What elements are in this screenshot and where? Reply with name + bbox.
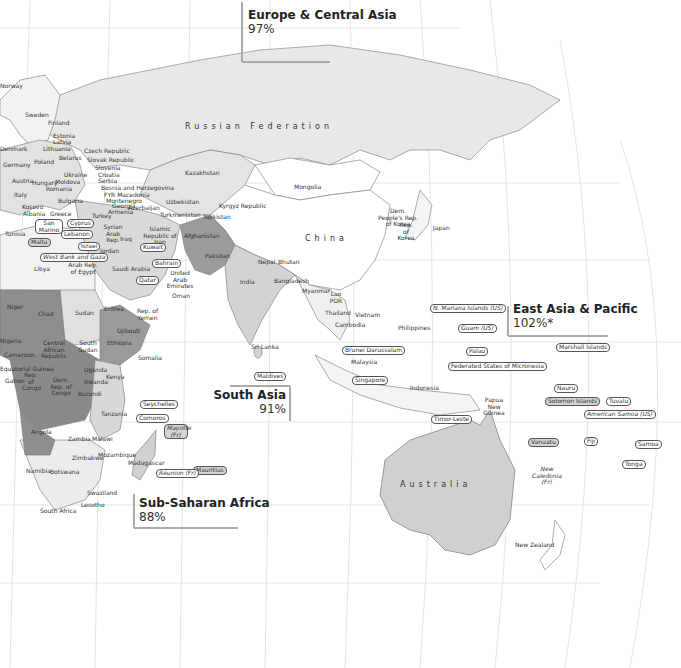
label-botswana: Botswana [50, 469, 79, 476]
label-sri-lanka: Sri Lanka [251, 344, 279, 351]
label-djibouti: Djibouti [117, 328, 140, 335]
label-drc: Dem. Rep. of Congo [48, 377, 74, 397]
label-angola: Angola [31, 429, 52, 436]
sudan-shape [60, 290, 105, 345]
label-png: Papua New Guinea [478, 397, 510, 417]
label-sweden: Sweden [25, 112, 49, 119]
label-marshall: Marshall Islands [556, 343, 610, 352]
label-uae: United Arab Emirates [165, 270, 195, 290]
label-ethiopia: Ethiopia [107, 340, 131, 347]
label-oman: Oman [172, 293, 190, 300]
label-nepal: Nepal [258, 259, 275, 266]
label-slovak: Slovak Republic [87, 157, 134, 164]
label-malawi: Malawi [92, 436, 113, 443]
label-new-zealand: New Zealand [515, 542, 554, 549]
label-namibia: Namibia [26, 468, 51, 475]
label-cambodia: Cambodia [335, 322, 365, 329]
region-name: Europe & Central Asia [248, 8, 397, 22]
label-tuvalu: Tuvalu [606, 397, 631, 406]
label-vanuatu: Vanuatu [528, 438, 559, 447]
label-guam: Guam (US) [458, 324, 497, 333]
label-saudi: Saudi Arabia [112, 266, 150, 273]
label-albania: Albania [23, 211, 45, 218]
label-australia: Australia [400, 480, 471, 489]
label-am-samoa: American Samoa (US) [584, 410, 656, 419]
label-norway: Norway [0, 83, 23, 90]
label-malaysia: Malaysia [351, 359, 377, 366]
label-madagascar: Madagascar [128, 460, 164, 467]
label-lao: Lao PDR [329, 291, 343, 304]
region-value: 102%* [513, 316, 638, 330]
label-israel: Israel [78, 242, 100, 251]
label-kenya: Kenya [106, 374, 124, 381]
label-azerbaijan: Azerbaijan [128, 205, 160, 212]
region-south-asia: South Asia 91% [238, 388, 286, 416]
label-austria: Austria [12, 178, 33, 185]
label-kazakhstan: Kazakhstan [185, 170, 220, 177]
label-tonga: Tonga [622, 460, 646, 469]
label-fiji: Fiji [584, 437, 598, 446]
label-south-africa: South Africa [40, 508, 76, 515]
label-timor: Timor-Leste [431, 415, 472, 424]
label-philippines: Philippines [398, 325, 430, 332]
label-palau: Palau [466, 347, 488, 356]
label-belarus: Belarus [59, 155, 82, 162]
region-europe-central-asia: Europe & Central Asia 97% [248, 8, 397, 36]
label-tajikistan: Tajikistan [203, 214, 231, 221]
label-samoa: Samoa [635, 440, 662, 449]
label-uzbekistan: Uzbekistan [166, 199, 199, 206]
label-malta: Malta [28, 238, 51, 247]
label-chad: Chad [38, 311, 53, 318]
label-singapore: Singapore [352, 376, 388, 385]
label-n-mariana: N. Mariana Islands (US) [430, 304, 506, 313]
label-burundi: Burundi [78, 391, 101, 398]
label-solomon: Solomon Islands [545, 397, 600, 406]
label-somalia: Somalia [138, 355, 162, 362]
label-kuwait: Kuwait [140, 243, 166, 252]
label-kyrgyz: Kyrgyz Republic [219, 203, 266, 210]
label-libya: Libya [34, 266, 50, 273]
label-iraq: Iraq [120, 236, 132, 243]
label-myanmar: Myanmar [302, 288, 330, 295]
region-name: South Asia [208, 388, 286, 402]
label-maldives: Maldives [254, 372, 286, 381]
region-sub-saharan-africa: Sub-Saharan Africa 88% [139, 496, 270, 524]
label-china: China [305, 234, 348, 243]
label-sudan: Sudan [75, 310, 94, 317]
label-reunion: Réunion (Fr) [156, 469, 199, 478]
label-car: Central African Republic [40, 340, 68, 360]
label-lithuania: Lithuania [43, 146, 71, 153]
label-turkmenistan: Turkmenistan [160, 212, 200, 219]
label-south-sudan: South Sudan [77, 340, 99, 353]
label-denmark: Denmark [0, 146, 28, 153]
label-niger: Niger [7, 304, 23, 311]
region-name: Sub-Saharan Africa [139, 496, 270, 510]
label-greece: Greece [50, 211, 71, 218]
label-finland: Finland [48, 120, 69, 127]
label-congo: Rep. of Congo [22, 372, 40, 392]
label-afghanistan: Afghanistan [184, 233, 220, 240]
label-yemen: Rep. of Yemen [135, 308, 160, 321]
label-bangladesh: Bangladesh [274, 278, 309, 285]
label-bhutan: Bhutan [278, 259, 300, 266]
label-tanzania: Tanzania [101, 411, 127, 418]
label-new-caledonia: New Caledonia (Fr) [532, 466, 562, 486]
label-korea: Rep. of Korea [396, 222, 416, 242]
label-micronesia: Federated States of Micronesia [448, 362, 547, 371]
label-eritrea: Eritrea [104, 306, 124, 313]
label-lesotho: Lesotho [81, 502, 105, 509]
label-uganda: Uganda [84, 367, 107, 374]
label-nigeria: Nigeria [0, 338, 21, 345]
label-italy: Italy [14, 192, 27, 199]
label-poland: Poland [34, 159, 54, 166]
region-value: 97% [248, 22, 397, 36]
label-bahrain: Bahrain [152, 259, 181, 268]
label-mozambique: Mozambique [98, 452, 136, 459]
label-lebanon: Lebanon [61, 230, 93, 239]
label-san-marino: San Marino [35, 219, 63, 234]
label-pakistan: Pakistan [205, 253, 230, 260]
label-seychelles: Seychelles [140, 400, 178, 409]
label-mongolia: Mongolia [294, 184, 321, 191]
label-bulgaria: Bulgaria [58, 198, 83, 205]
label-qatar: Qatar [136, 276, 159, 285]
